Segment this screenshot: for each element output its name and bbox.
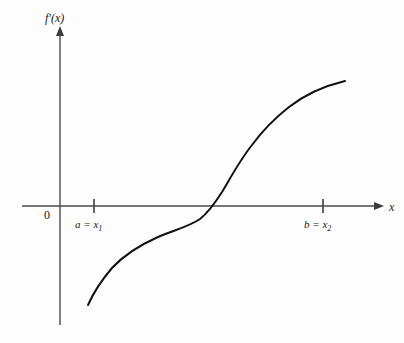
y-axis-arrowhead — [56, 26, 64, 36]
derivative-graph-figure: f′(x) x 0 a = x1 b = x2 — [0, 0, 404, 343]
tick-b-label: b = x2 — [304, 218, 331, 233]
y-axis-label: f′(x) — [45, 11, 64, 25]
tick-a-label: a = x1 — [75, 218, 102, 233]
origin-label: 0 — [44, 208, 50, 222]
x-axis-label: x — [388, 200, 395, 214]
x-axis-arrowhead — [374, 202, 384, 210]
derivative-curve — [88, 81, 345, 305]
